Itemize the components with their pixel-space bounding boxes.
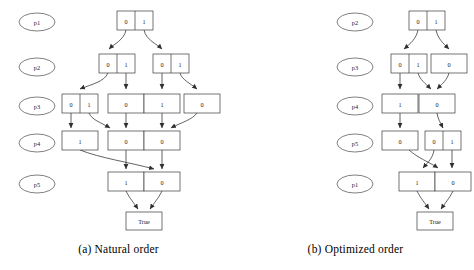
variable-label-text: p3	[352, 64, 358, 71]
node-cell-single: 0	[398, 138, 401, 145]
figure-caption-a: (a) Natural order	[0, 243, 237, 255]
bdd-node[interactable]: 1	[108, 172, 144, 191]
node-cell-single: 0	[447, 61, 450, 68]
node-cell-single: 1	[415, 179, 418, 186]
terminal-node-true[interactable]: True	[126, 212, 162, 230]
node-cell-single: 0	[160, 179, 163, 186]
bdd-node[interactable]: 0	[144, 131, 180, 150]
variable-label-text: p2	[352, 19, 358, 26]
variable-label-p3: p3	[19, 97, 55, 115]
bdd-node[interactable]: 0	[108, 94, 144, 113]
variable-label-p3: p3	[337, 58, 373, 76]
figure-caption-b: (b) Optimized order	[237, 243, 474, 255]
bdd-node[interactable]: 0 1	[391, 54, 427, 73]
variable-label-text: p5	[34, 181, 40, 188]
variable-label-text: p1	[352, 181, 358, 188]
node-cell-low: 0	[69, 101, 72, 108]
bdd-node[interactable]: 0 1	[62, 94, 98, 113]
variable-label-p1: p1	[337, 175, 373, 193]
node-cell-low: 0	[106, 61, 109, 68]
variable-label-text: p4	[34, 140, 41, 147]
figure-optimized-order: p2 p3 p4 p5 p1	[237, 0, 474, 270]
node-cell-high: 1	[87, 101, 90, 108]
edge	[80, 150, 154, 169]
edge	[417, 191, 429, 209]
bdd-node[interactable]: 0	[382, 131, 418, 150]
edge	[437, 73, 449, 89]
bdd-node[interactable]: 0	[108, 131, 144, 150]
bdd-node[interactable]: 0	[419, 94, 455, 113]
node-cell-single: 1	[78, 138, 81, 145]
edge	[150, 191, 162, 209]
bdd-node[interactable]: 0	[431, 54, 467, 73]
bdd-node[interactable]: 1	[62, 131, 98, 150]
bdd-node[interactable]: 1	[382, 94, 418, 113]
variable-label-p4: p4	[19, 134, 55, 152]
node-cell-low: 0	[124, 18, 127, 25]
node-cell-high: 1	[450, 138, 453, 145]
node-cell-single: 1	[160, 101, 163, 108]
node-cell-single: 0	[435, 101, 438, 108]
bdd-node[interactable]: 0 1	[409, 11, 445, 30]
node-cell-low: 0	[160, 61, 163, 68]
node-cell-single: 0	[124, 138, 127, 145]
variable-label-p2: p2	[19, 58, 55, 76]
node-cell-single: 1	[398, 101, 401, 108]
edge	[418, 73, 431, 89]
variable-label-p5: p5	[19, 175, 55, 193]
node-cell-low: 0	[432, 138, 435, 145]
edge	[441, 191, 453, 209]
edge	[404, 30, 418, 49]
edge	[126, 191, 138, 209]
edge	[80, 73, 108, 89]
node-cell-single: 0	[451, 179, 454, 186]
edge	[171, 113, 197, 128]
bdd-diagram-natural-order: p1 p2 p3 p4 p5	[0, 0, 237, 245]
node-cell-single: 1	[124, 179, 127, 186]
bdd-node[interactable]: 0 1	[117, 11, 153, 30]
edge	[423, 150, 434, 168]
figure-natural-order: p1 p2 p3 p4 p5	[0, 0, 237, 270]
bdd-node[interactable]: 0	[435, 172, 471, 191]
terminal-node-true[interactable]: True	[417, 212, 453, 230]
bdd-diagram-optimized-order: p2 p3 p4 p5 p1	[237, 0, 474, 245]
variable-label-p2: p2	[337, 13, 373, 31]
node-cell-high: 1	[434, 18, 437, 25]
bdd-node[interactable]: 1	[144, 94, 180, 113]
variable-label-p5: p5	[337, 134, 373, 152]
node-cell-high: 1	[142, 18, 145, 25]
node-cell-low: 0	[416, 18, 419, 25]
variable-label-text: p4	[352, 103, 359, 110]
node-cell-single: 0	[124, 101, 127, 108]
bdd-node[interactable]: 1	[399, 172, 435, 191]
node-cell-high: 1	[416, 61, 419, 68]
terminal-label: True	[138, 218, 150, 225]
variable-label-text: p1	[34, 19, 40, 26]
variable-label-text: p2	[34, 64, 40, 71]
bdd-node[interactable]: 0 1	[153, 54, 189, 73]
node-cell-single: 0	[200, 101, 203, 108]
variable-label-text: p5	[352, 140, 358, 147]
bdd-node[interactable]: 0 1	[99, 54, 135, 73]
bdd-node[interactable]: 0	[184, 94, 220, 113]
variable-label-p1: p1	[19, 13, 55, 31]
edge	[109, 30, 126, 49]
variable-label-text: p3	[34, 103, 40, 110]
edge	[437, 113, 443, 128]
edge	[180, 73, 197, 89]
terminal-label: True	[429, 218, 441, 225]
variable-label-p4: p4	[337, 97, 373, 115]
edge	[144, 30, 162, 49]
node-cell-high: 1	[124, 61, 127, 68]
bdd-node[interactable]: 0 1	[425, 131, 461, 150]
edge	[436, 30, 449, 49]
node-cell-low: 0	[398, 61, 401, 68]
node-cell-high: 1	[178, 61, 181, 68]
edge	[89, 113, 110, 128]
bdd-node[interactable]: 0	[144, 172, 180, 191]
node-cell-single: 0	[160, 138, 163, 145]
